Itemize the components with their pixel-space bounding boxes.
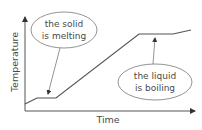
melting-pointer-arrow <box>48 48 60 94</box>
annotation-melting: the solid is melting <box>31 12 97 48</box>
x-axis-label: Time <box>95 114 119 125</box>
annotation-boiling: the liquid is boiling <box>118 64 192 100</box>
annotation-boiling-line1: the liquid <box>134 71 176 81</box>
annotation-melting-ellipse <box>31 12 97 48</box>
heating-curve-diagram: the solid is melting the liquid is boili… <box>0 0 202 130</box>
y-axis-label: Temperature <box>9 32 20 93</box>
annotation-boiling-ellipse <box>118 64 192 100</box>
annotation-boiling-line2: is boiling <box>135 83 175 93</box>
annotation-melting-line1: the solid <box>45 19 84 29</box>
boiling-pointer-arrow <box>153 38 155 64</box>
annotation-melting-line2: is melting <box>42 31 86 41</box>
